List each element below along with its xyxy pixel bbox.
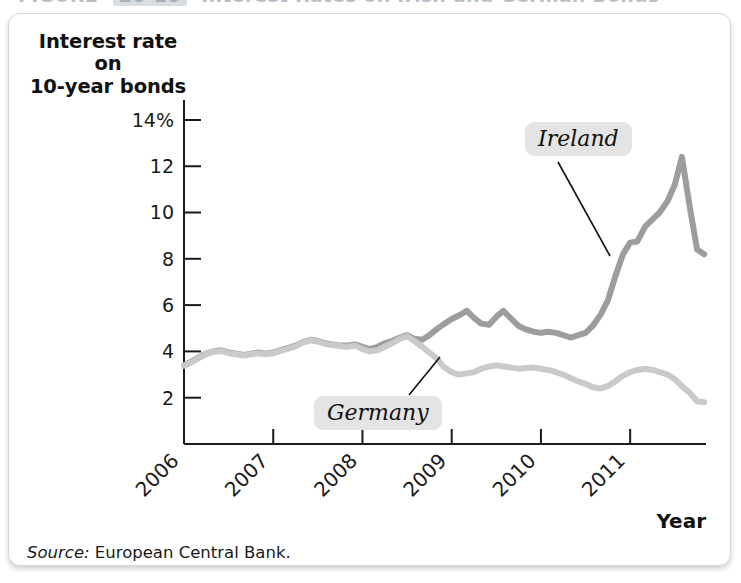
- svg-text:2008: 2008: [309, 449, 362, 502]
- source-line: Source: European Central Bank.: [27, 543, 291, 562]
- figure-prefix: FIGURE: [18, 0, 98, 6]
- figure-title: FIGURE 20-10 Interest Rates on Irish and…: [18, 0, 659, 6]
- svg-text:2006: 2006: [131, 449, 184, 502]
- series-label-ireland: Ireland: [525, 122, 632, 156]
- x-axis-caption: Year: [656, 509, 706, 533]
- series-label-germany: Germany: [314, 396, 442, 430]
- figure-title-strip: FIGURE 20-10 Interest Rates on Irish and…: [0, 0, 741, 14]
- svg-text:2: 2: [162, 387, 174, 409]
- x-axis-ticks: 200620072008200920102011: [131, 429, 631, 502]
- svg-text:2007: 2007: [220, 449, 273, 502]
- svg-text:4: 4: [162, 340, 174, 362]
- svg-text:8: 8: [162, 248, 174, 270]
- svg-text:14%: 14%: [132, 109, 174, 131]
- svg-text:6: 6: [162, 294, 174, 316]
- svg-text:10: 10: [150, 201, 174, 223]
- series-line-germany: [184, 336, 704, 402]
- figure-title-text: Interest Rates on Irish and German Bonds: [201, 0, 659, 6]
- plot-area: 2468101214% 200620072008200920102011: [9, 14, 731, 566]
- svg-text:2010: 2010: [487, 449, 540, 502]
- source-text: European Central Bank.: [95, 543, 291, 562]
- svg-text:12: 12: [150, 155, 174, 177]
- svg-text:2009: 2009: [398, 449, 451, 502]
- series-line-ireland: [184, 157, 704, 365]
- series-group: [184, 157, 704, 402]
- svg-text:2011: 2011: [577, 449, 630, 502]
- figure-card: Interest rate on 10-year bonds 246810121…: [8, 13, 731, 566]
- source-word: Source:: [27, 543, 90, 562]
- figure-number-badge: 20-10: [113, 0, 187, 6]
- line-chart-svg: 2468101214% 200620072008200920102011: [9, 14, 731, 566]
